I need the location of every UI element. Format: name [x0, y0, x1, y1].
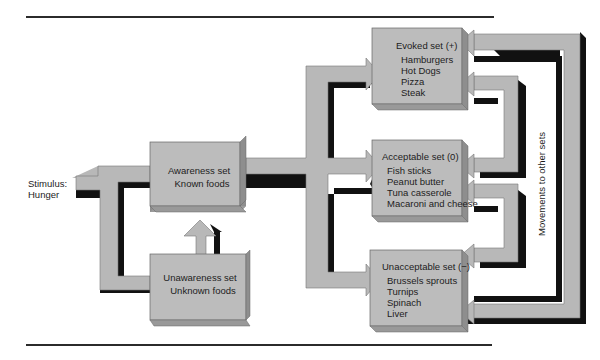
- acceptable-text: Acceptable set (0) Fish sticks Peanut bu…: [382, 151, 478, 209]
- movements-label: Movements to other sets: [536, 132, 547, 236]
- acceptable-item: Peanut butter: [382, 176, 478, 187]
- acceptable-item: Fish sticks: [382, 165, 478, 176]
- awareness-subtitle: Known foods: [164, 178, 234, 189]
- acceptable-title: Acceptable set (0): [382, 151, 478, 162]
- evoked-text: Evoked set (+) Hamburgers Hot Dogs Pizza…: [396, 40, 458, 98]
- unacceptable-item: Liver: [382, 308, 470, 319]
- left-loop: [76, 166, 154, 293]
- unawareness-subtitle: Unknown foods: [160, 285, 240, 296]
- unawareness-title: Unawareness set: [160, 272, 240, 283]
- unacceptable-title: Unacceptable set (−): [382, 261, 470, 272]
- consideration-set-diagram: [0, 0, 600, 360]
- branch-arrows: [246, 58, 382, 296]
- evoked-item: Pizza: [396, 76, 458, 87]
- unawareness-text: Unawareness set Unknown foods: [160, 272, 240, 296]
- evoked-item: Steak: [396, 87, 458, 98]
- stimulus-line1: Stimulus:: [28, 178, 67, 189]
- unacceptable-item: Turnips: [382, 286, 470, 297]
- up-arrow: [184, 220, 222, 255]
- awareness-text: Awareness set Known foods: [164, 165, 234, 189]
- unacceptable-text: Unacceptable set (−) Brussels sprouts Tu…: [382, 261, 470, 319]
- awareness-title: Awareness set: [164, 165, 234, 176]
- unacceptable-item: Spinach: [382, 297, 470, 308]
- evoked-item: Hamburgers: [396, 54, 458, 65]
- evoked-title: Evoked set (+): [396, 40, 458, 51]
- stimulus-line2: Hunger: [28, 189, 67, 200]
- evoked-item: Hot Dogs: [396, 65, 458, 76]
- stimulus-label: Stimulus: Hunger: [28, 178, 67, 200]
- unacceptable-item: Brussels sprouts: [382, 275, 470, 286]
- acceptable-item: Macaroni and cheese: [382, 198, 478, 209]
- acceptable-item: Tuna casserole: [382, 187, 478, 198]
